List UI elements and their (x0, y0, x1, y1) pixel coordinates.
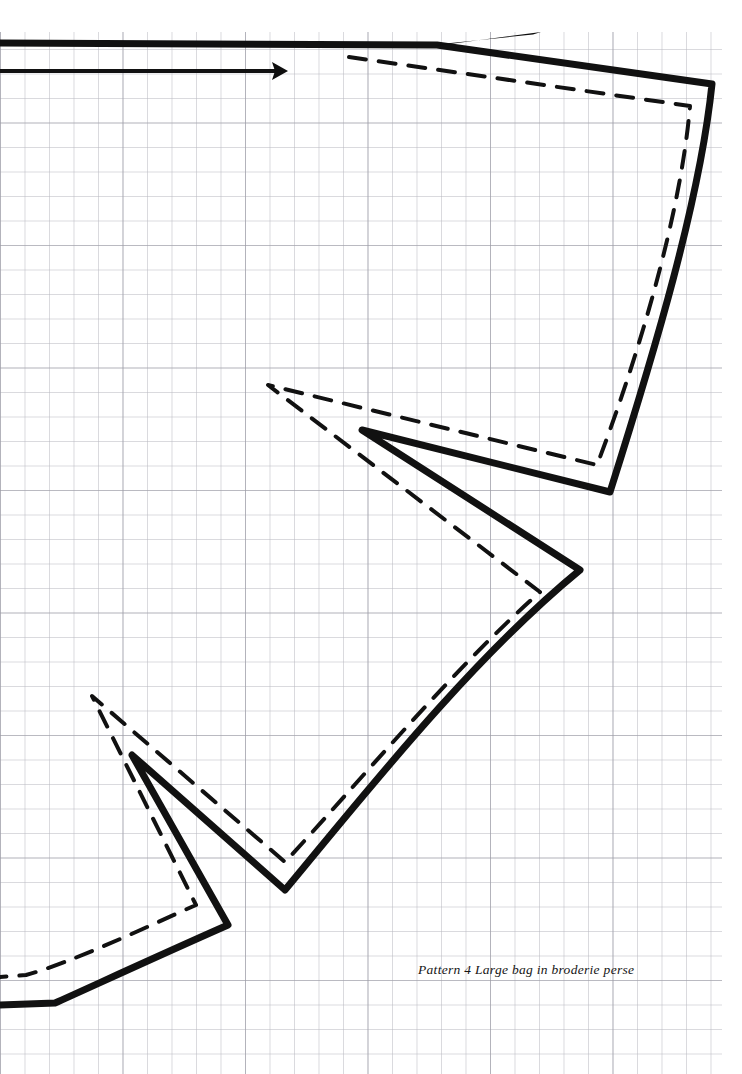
pattern-drawing-canvas (0, 0, 742, 1074)
graph-paper-grid (0, 32, 722, 1074)
pattern-caption: Pattern 4 Large bag in broderie perse (418, 962, 634, 978)
pattern-page: Pattern 4 Large bag in broderie perse (0, 0, 742, 1074)
